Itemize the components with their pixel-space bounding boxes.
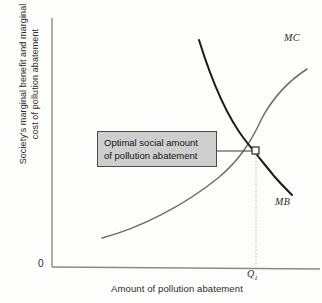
x-tick-q1-subscript: 1 <box>254 274 258 282</box>
y-axis-title-line2: cost of pollution abatement <box>30 29 40 139</box>
x-axis-line <box>52 267 320 269</box>
callout-line-1: Optimal social amount <box>104 136 216 149</box>
mb-curve <box>199 40 292 195</box>
intersection-marker <box>252 147 259 154</box>
pollution-abatement-chart: Society's marginal benefit and marginal … <box>0 0 322 303</box>
mb-curve-label: MB <box>275 196 290 207</box>
x-tick-q1: Q1 <box>247 268 258 282</box>
x-axis-title: Amount of pollution abatement <box>52 283 302 294</box>
optimal-point-callout: Optimal social amount of pollution abate… <box>97 131 217 167</box>
y-axis-title-line1: Society's marginal benefit and marginal <box>18 4 28 165</box>
y-axis-title: Society's marginal benefit and marginal … <box>17 0 41 209</box>
origin-label: 0 <box>38 258 44 269</box>
mc-curve-label: MC <box>284 32 300 43</box>
callout-line-2: of pollution abatement <box>104 149 216 162</box>
